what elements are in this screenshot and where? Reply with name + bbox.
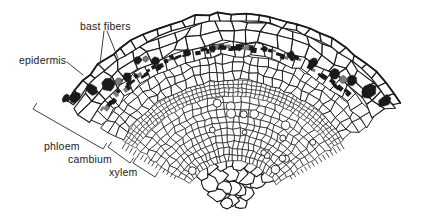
bast-fibers-leader-line-1 — [100, 31, 104, 64]
bast-fibers-leader-line-2 — [107, 31, 118, 58]
label-phloem: phloem — [44, 141, 80, 152]
label-cambium: cambium — [68, 154, 112, 165]
epidermis-leader-line — [67, 62, 83, 75]
stem-cross-section-diagram: bast fibers epidermis phloem cambium xyl… — [0, 0, 424, 219]
label-xylem: xylem — [109, 167, 137, 178]
label-bast-fibers: bast fibers — [80, 21, 131, 32]
label-epidermis: epidermis — [19, 55, 66, 66]
annotation-layer — [0, 0, 424, 219]
